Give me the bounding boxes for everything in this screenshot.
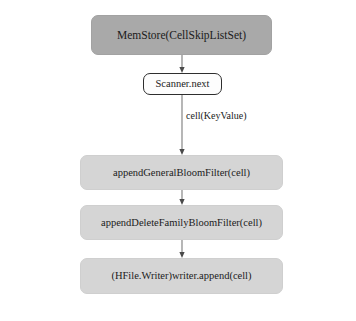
- node-scanner-next-label: Scanner.next: [156, 78, 210, 90]
- node-scanner-next[interactable]: Scanner.next: [143, 73, 222, 95]
- node-memstore-label: MemStore(CellSkipListSet): [117, 29, 246, 42]
- edge-label-cell-keyvalue: cell(KeyValue): [186, 110, 247, 121]
- flowchart-canvas: MemStore(CellSkipListSet) Scanner.next c…: [0, 0, 356, 321]
- node-hfile-writer-append[interactable]: (HFile.Writer)writer.append(cell): [80, 258, 283, 294]
- node-append-general-bloom-filter-label: appendGeneralBloomFilter(cell): [113, 167, 250, 179]
- node-append-delete-family-bloom-filter[interactable]: appendDeleteFamilyBloomFilter(cell): [80, 205, 283, 240]
- node-append-delete-family-bloom-filter-label: appendDeleteFamilyBloomFilter(cell): [101, 217, 262, 229]
- node-hfile-writer-append-label: (HFile.Writer)writer.append(cell): [111, 270, 251, 282]
- node-append-general-bloom-filter[interactable]: appendGeneralBloomFilter(cell): [80, 155, 283, 190]
- node-memstore[interactable]: MemStore(CellSkipListSet): [91, 15, 272, 55]
